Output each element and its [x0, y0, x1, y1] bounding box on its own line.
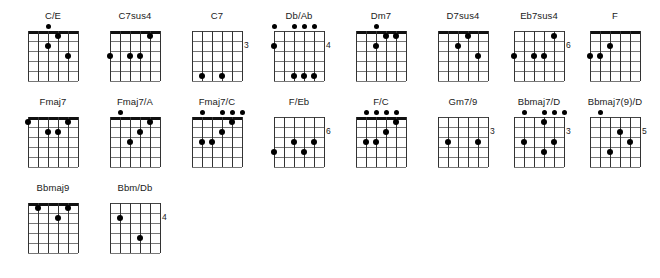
chord-grid [28, 31, 78, 81]
fretboard [420, 22, 506, 84]
fret-line [110, 127, 160, 128]
open-string-dot [552, 110, 557, 115]
fretboard [338, 108, 424, 170]
fret-line [274, 41, 324, 42]
fret-line [110, 167, 160, 168]
chord-name-label: Dm7 [338, 10, 424, 22]
fret-line [28, 223, 78, 224]
open-string-dot [394, 110, 399, 115]
open-string-dot [118, 110, 123, 115]
string-line [130, 203, 131, 253]
fret-line [110, 147, 160, 148]
finger-dot [373, 43, 379, 49]
open-string-markers [10, 108, 96, 117]
chord-diagram: F/C [338, 96, 424, 170]
fretboard [92, 108, 178, 170]
string-line [120, 31, 121, 81]
string-line [488, 31, 489, 81]
open-string-dot [522, 110, 527, 115]
fret-line [192, 147, 242, 148]
finger-dot [541, 53, 547, 59]
fret-line [590, 61, 640, 62]
finger-dot [475, 53, 481, 59]
finger-dot [393, 33, 399, 39]
string-line [406, 117, 407, 167]
finger-dot [475, 139, 481, 145]
chord-grid [514, 31, 564, 81]
string-line [284, 31, 285, 81]
fret-line [514, 81, 564, 82]
string-line [28, 203, 29, 253]
fret-line [28, 137, 78, 138]
fret-line [438, 51, 488, 52]
top-fret-line [110, 203, 160, 204]
chord-grid [192, 31, 242, 81]
chord-name-label: Fmaj7 [10, 96, 96, 108]
fret-line [274, 61, 324, 62]
open-string-dot [302, 24, 307, 29]
open-string-dot [312, 24, 317, 29]
fret-position-number: 6 [326, 127, 331, 136]
fret-line [192, 127, 242, 128]
string-line [242, 31, 243, 81]
string-line [620, 31, 621, 81]
finger-dot [597, 53, 603, 59]
chord-name-label: Fmaj7/C [174, 96, 260, 108]
open-string-markers [92, 194, 178, 203]
fret-line [438, 81, 488, 82]
fret-line [110, 71, 160, 72]
string-line [564, 31, 565, 81]
fret-line [274, 81, 324, 82]
fretboard: 4 [92, 194, 178, 256]
fret-line [356, 41, 406, 42]
fret-line [356, 147, 406, 148]
chord-grid [590, 117, 640, 167]
open-string-dot [272, 24, 277, 29]
string-line [284, 117, 285, 167]
finger-dot [137, 235, 143, 241]
chord-diagram: Bbmaj9 [10, 182, 96, 256]
fret-position-number: 3 [244, 41, 249, 50]
finger-dot [301, 149, 307, 155]
string-line [140, 117, 141, 167]
finger-dot [107, 53, 113, 59]
fret-line [28, 157, 78, 158]
string-line [38, 31, 39, 81]
finger-dot [127, 139, 133, 145]
chord-diagram: Gm7/93 [420, 96, 506, 170]
nut-line [438, 31, 488, 34]
chord-diagram: F/Eb6 [256, 96, 342, 170]
open-string-dot [384, 110, 389, 115]
fret-line [28, 243, 78, 244]
fretboard: 6 [256, 108, 342, 170]
open-string-dot [562, 110, 567, 115]
string-line [232, 31, 233, 81]
string-line [356, 117, 357, 167]
string-line [192, 31, 193, 81]
finger-dot [35, 205, 41, 211]
string-line [324, 117, 325, 167]
finger-dot [127, 53, 133, 59]
string-line [58, 203, 59, 253]
fret-line [28, 147, 78, 148]
chord-grid [110, 117, 160, 167]
chord-diagram: Fmaj7/A [92, 96, 178, 170]
fretboard: 3 [420, 108, 506, 170]
fret-line [110, 41, 160, 42]
open-string-markers [174, 108, 260, 117]
finger-dot [137, 129, 143, 135]
fretboard [10, 22, 96, 84]
nut-line [590, 31, 640, 34]
chord-grid [274, 117, 324, 167]
fret-line [356, 71, 406, 72]
chord-name-label: Bbmaj9 [10, 182, 96, 194]
open-string-dot [364, 110, 369, 115]
finger-dot [301, 73, 307, 79]
string-line [274, 31, 275, 81]
chord-grid [192, 117, 242, 167]
chord-grid [514, 117, 564, 167]
fret-line [274, 157, 324, 158]
chord-name-label: D7sus4 [420, 10, 506, 22]
fret-position-number: 3 [490, 127, 495, 136]
fret-line [28, 213, 78, 214]
